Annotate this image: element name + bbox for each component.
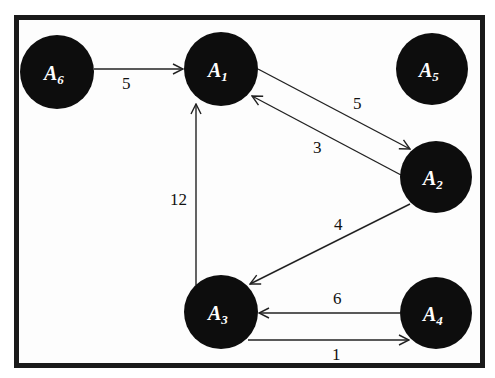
edge-weight-a4-a3: 6 xyxy=(333,289,342,308)
edge-weight-a3-a1: 12 xyxy=(170,190,187,209)
node-a4: A4 xyxy=(400,277,472,349)
edge-weight-a2-a3: 4 xyxy=(334,215,343,234)
node-a3: A3 xyxy=(184,275,258,349)
edge-a2-a1: 3 xyxy=(252,96,401,175)
node-a4-label: A xyxy=(421,303,436,325)
node-a1: A1 xyxy=(184,32,258,106)
edge-a2-a3: 4 xyxy=(250,204,410,284)
edge-a3-a1: 12 xyxy=(170,104,196,285)
edge-a4-a3: 6 xyxy=(259,289,400,313)
node-a2: A2 xyxy=(400,141,472,213)
edge-weight-a2-a1: 3 xyxy=(313,138,322,157)
node-a2-label: A xyxy=(421,167,436,189)
node-a3-label: A xyxy=(206,302,221,324)
node-a5-label: A xyxy=(417,59,432,81)
edge-a1-a2: 5 xyxy=(258,69,410,149)
graph-canvas: 5 5 3 4 12 6 1 A6 A1 A5 A2 xyxy=(0,0,495,378)
edge-weight-a1-a2: 5 xyxy=(353,94,362,113)
node-a6: A6 xyxy=(20,35,94,109)
node-a6-label: A xyxy=(42,62,57,84)
node-a1-label: A xyxy=(206,59,221,81)
node-a5: A5 xyxy=(396,33,468,105)
edge-weight-a3-a4: 1 xyxy=(332,345,341,364)
edge-weight-a6-a1: 5 xyxy=(122,74,131,93)
edge-a3-a4: 1 xyxy=(248,340,409,364)
edge-a6-a1: 5 xyxy=(94,69,183,93)
